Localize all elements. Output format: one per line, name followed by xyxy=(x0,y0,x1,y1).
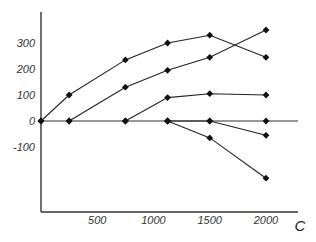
y-tick-label: 300 xyxy=(17,37,36,49)
series-line xyxy=(41,35,266,121)
diamond-marker xyxy=(263,27,270,34)
diamond-marker xyxy=(122,57,129,64)
series-line xyxy=(168,121,266,178)
y-tick-label: -100 xyxy=(13,141,36,153)
diamond-marker xyxy=(206,90,213,97)
diamond-marker xyxy=(263,132,270,139)
diamond-marker xyxy=(122,118,129,125)
diamond-marker xyxy=(206,32,213,39)
tick-labels: 3002001000-100500100015002000C xyxy=(13,37,306,234)
diamond-marker xyxy=(206,118,213,125)
diamond-marker xyxy=(164,67,171,74)
diamond-marker xyxy=(164,94,171,101)
x-tick-label: 2000 xyxy=(253,214,279,226)
x-tick-label: 1500 xyxy=(198,214,223,226)
diamond-marker xyxy=(206,135,213,142)
x-tick-label: 500 xyxy=(88,214,107,226)
diamond-marker xyxy=(263,92,270,99)
diamond-marker xyxy=(263,118,270,125)
diamond-marker xyxy=(66,118,73,125)
y-tick-label: 0 xyxy=(29,115,36,127)
x-axis-title: C xyxy=(295,217,306,234)
y-tick-label: 200 xyxy=(16,63,36,75)
line-chart: 3002001000-100500100015002000C xyxy=(0,0,316,242)
diamond-marker xyxy=(122,84,129,91)
x-tick-label: 1000 xyxy=(141,214,166,226)
diamond-marker xyxy=(164,40,171,47)
series-lines xyxy=(41,30,266,178)
diamond-marker xyxy=(206,54,213,61)
y-tick-label: 100 xyxy=(17,89,36,101)
data-markers xyxy=(38,27,270,182)
diamond-marker xyxy=(164,118,171,125)
series-line xyxy=(125,94,266,121)
series-line xyxy=(168,121,266,135)
diamond-marker xyxy=(263,54,270,61)
